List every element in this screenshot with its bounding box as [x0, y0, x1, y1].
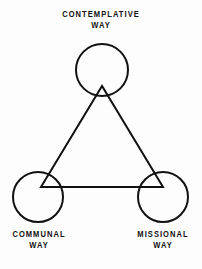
- diagram-canvas: CONTEMPLATIVE WAY COMMUNAL WAY MISSIONAL…: [0, 0, 202, 269]
- diagram-figure: [0, 0, 202, 269]
- label-contemplative: CONTEMPLATIVE WAY: [8, 10, 194, 31]
- circle-contemplative[interactable]: [76, 44, 128, 96]
- circle-missional[interactable]: [138, 172, 188, 222]
- label-communal: COMMUNAL WAY: [3, 230, 75, 251]
- label-missional-line2: WAY: [127, 241, 199, 252]
- label-contemplative-line2: WAY: [8, 21, 194, 32]
- label-communal-line2: WAY: [3, 241, 75, 252]
- triangle-edges: [41, 86, 163, 187]
- label-missional-line1: MISSIONAL: [127, 230, 199, 241]
- circle-communal[interactable]: [13, 172, 63, 222]
- triangle-outline: [41, 86, 163, 187]
- label-missional: MISSIONAL WAY: [127, 230, 199, 251]
- label-communal-line1: COMMUNAL: [3, 230, 75, 241]
- node-circles: [13, 44, 188, 222]
- label-contemplative-line1: CONTEMPLATIVE: [8, 10, 194, 21]
